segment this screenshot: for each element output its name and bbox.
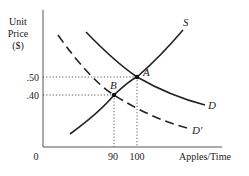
supply-curve-label: S — [183, 16, 189, 28]
y-axis-label-currency: ($) — [12, 40, 24, 52]
x-axis-label: Apples/Time — [179, 151, 231, 162]
shifted-demand-curve — [58, 35, 187, 128]
y-axis-label-price: Price — [8, 28, 29, 39]
x-tick-100: 100 — [130, 151, 145, 162]
point-b-label: B — [110, 79, 117, 91]
y-tick-40: .40 — [27, 90, 40, 101]
y-axis-label-unit: Unit — [9, 16, 27, 27]
point-a-label: A — [142, 66, 150, 78]
supply-curve — [70, 30, 183, 134]
supply-demand-chart: Unit Price ($) .50 .40 0 90 100 Apples/T… — [0, 0, 249, 176]
demand-curve-label: D — [207, 99, 216, 111]
x-tick-90: 90 — [108, 151, 118, 162]
origin-label: 0 — [34, 151, 39, 162]
y-tick-50: .50 — [27, 72, 40, 83]
equilibrium-point-b — [112, 93, 116, 97]
shifted-demand-curve-label: D' — [191, 124, 203, 136]
equilibrium-point-a — [135, 75, 139, 79]
